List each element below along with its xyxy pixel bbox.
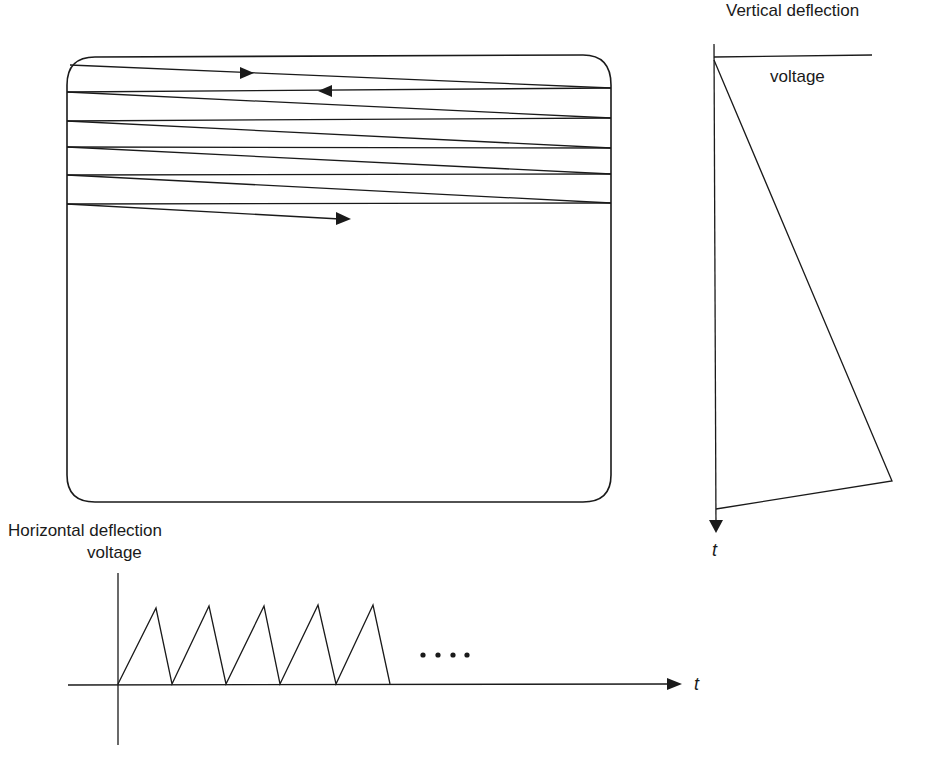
vertical-voltage-axis bbox=[714, 55, 872, 57]
vertical-time-axis bbox=[714, 44, 716, 530]
tv-screen bbox=[67, 55, 611, 502]
horizontal-sawtooth-waveform bbox=[118, 605, 390, 684]
vertical-deflection-graph: Vertical deflection voltage t bbox=[709, 1, 892, 560]
scan-line-trace-partial bbox=[67, 204, 340, 219]
raster-scan-lines bbox=[67, 65, 611, 219]
scan-line-retrace bbox=[67, 147, 611, 148]
arrow-down-icon bbox=[709, 520, 723, 533]
scan-line-trace bbox=[70, 65, 611, 88]
horizontal-deflection-label-line2: voltage bbox=[87, 543, 142, 562]
scan-line-trace bbox=[67, 121, 611, 148]
vertical-sawtooth-waveform bbox=[714, 60, 892, 509]
vertical-time-axis-label: t bbox=[712, 540, 718, 560]
scan-line-retrace bbox=[67, 203, 611, 204]
scan-line-trace bbox=[67, 92, 611, 118]
horizontal-time-axis-label: t bbox=[694, 674, 700, 694]
scan-line-trace bbox=[67, 147, 611, 174]
arrow-right-icon bbox=[240, 67, 254, 79]
scan-line-trace bbox=[67, 175, 611, 203]
scan-line-retrace bbox=[67, 118, 611, 121]
horizontal-deflection-label-line1: Horizontal deflection bbox=[8, 521, 162, 540]
scan-line-retrace bbox=[67, 88, 611, 92]
continuation-dots bbox=[420, 652, 469, 657]
horizontal-time-axis bbox=[68, 684, 667, 685]
arrow-right-icon bbox=[667, 678, 682, 690]
screen-outline bbox=[67, 55, 611, 502]
scan-line-retrace bbox=[67, 174, 611, 175]
vertical-deflection-label-line2: voltage bbox=[770, 67, 825, 86]
horizontal-deflection-graph: Horizontal deflection voltage t bbox=[8, 521, 700, 745]
arrow-left-icon bbox=[318, 85, 332, 97]
arrow-right-icon bbox=[336, 212, 351, 225]
raster-scan-diagram: Vertical deflection voltage t Horizontal… bbox=[0, 0, 927, 765]
vertical-deflection-label-line1: Vertical deflection bbox=[726, 1, 859, 20]
